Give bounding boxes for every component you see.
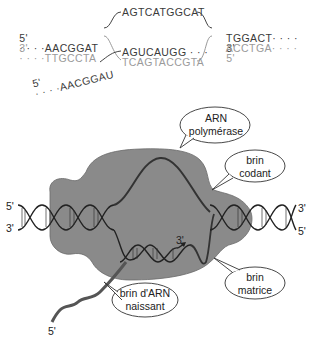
left-bottom-end-label: 3' bbox=[6, 222, 14, 234]
label-template-strand: brin matrice bbox=[230, 271, 280, 296]
label-nascent-rna: brin d'ARN naissant bbox=[113, 287, 177, 312]
rna-3prime-label: 3' bbox=[176, 234, 184, 246]
right-top-end-label: 3' bbox=[298, 202, 306, 214]
label-coding-strand: brin codant bbox=[230, 154, 280, 179]
right-bottom-end-label: 5' bbox=[298, 225, 306, 237]
left-top-end-label: 5' bbox=[6, 200, 14, 212]
label-rna-polymerase: ARN polymérase bbox=[186, 112, 246, 137]
rna-5prime-label: 5' bbox=[48, 325, 56, 337]
